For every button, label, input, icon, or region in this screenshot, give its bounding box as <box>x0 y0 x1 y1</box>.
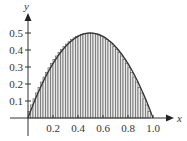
riemann-rectangle <box>61 49 64 118</box>
riemann-rectangle <box>86 33 89 118</box>
riemann-rectangle <box>113 47 116 118</box>
riemann-rectangle <box>126 64 129 118</box>
riemann-rectangle <box>136 82 139 118</box>
riemann-rectangle <box>138 87 141 118</box>
riemann-rectangle <box>83 34 86 118</box>
riemann-rectangle <box>91 33 94 118</box>
riemann-rectangle <box>143 99 146 118</box>
riemann-rectangle <box>93 34 96 118</box>
y-tick-label: 0.5 <box>9 27 23 39</box>
x-axis-arrow-icon <box>166 115 174 122</box>
riemann-rectangle <box>108 42 111 118</box>
riemann-rectangle <box>68 42 71 118</box>
riemann-rectangle <box>116 49 119 118</box>
riemann-rectangle <box>43 77 46 118</box>
riemann-rectangle <box>56 56 59 118</box>
riemann-rectangle <box>103 38 106 118</box>
riemann-rectangle <box>131 72 134 118</box>
riemann-rectangle <box>101 36 104 118</box>
riemann-rectangle <box>46 72 49 118</box>
riemann-rectangle <box>96 34 99 118</box>
riemann-rectangle <box>146 105 149 118</box>
riemann-rectangle <box>141 93 144 118</box>
riemann-sum-chart: x y 0.2 0.4 0.6 0.8 1.0 0.1 0.2 0.3 0.4 … <box>0 0 187 141</box>
riemann-rectangle <box>63 47 66 118</box>
y-tick-label: 0.4 <box>9 44 23 56</box>
x-tick-label: 1.0 <box>146 122 160 134</box>
riemann-rectangle <box>148 111 151 118</box>
riemann-rectangle <box>76 36 79 118</box>
riemann-rectangle <box>58 53 61 118</box>
x-axis-label: x <box>176 112 182 124</box>
y-tick-label: 0.1 <box>9 95 23 107</box>
riemann-rectangle <box>71 40 74 118</box>
riemann-rectangle <box>73 38 76 118</box>
x-tick-label: 0.8 <box>121 122 135 134</box>
riemann-rectangle <box>98 35 101 118</box>
x-tick-label: 0.6 <box>96 122 110 134</box>
riemann-rectangle <box>48 68 51 118</box>
riemann-rectangle <box>111 44 114 118</box>
y-tick-label: 0.3 <box>9 61 23 73</box>
riemann-rectangle <box>78 35 81 118</box>
riemann-rectangle <box>53 60 56 118</box>
y-axis-arrow-icon <box>25 13 32 21</box>
x-tick-label: 0.4 <box>71 122 85 134</box>
riemann-rectangle <box>128 68 131 118</box>
riemann-rectangle <box>66 44 69 118</box>
riemann-rectangle <box>118 53 121 118</box>
riemann-rectangle <box>81 34 84 118</box>
riemann-rectangle <box>88 33 91 118</box>
x-tick-label: 0.2 <box>46 122 60 134</box>
riemann-rectangle <box>51 64 54 118</box>
y-tick-label: 0.2 <box>9 78 23 90</box>
riemann-rectangle <box>121 56 124 118</box>
riemann-rectangle <box>133 77 136 118</box>
y-axis-label: y <box>23 0 29 12</box>
riemann-rectangle <box>106 40 109 118</box>
riemann-rectangle <box>123 60 126 118</box>
